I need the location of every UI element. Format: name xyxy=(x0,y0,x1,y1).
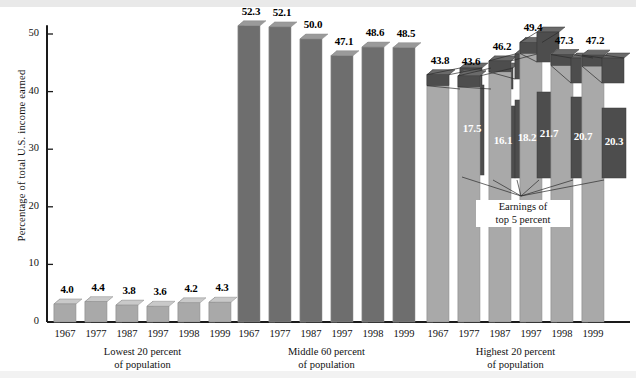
bar-highest-20-percent-1967 xyxy=(427,70,455,322)
bar-value-label: 50.0 xyxy=(296,18,330,30)
bar-lowest-20-percent-1997 xyxy=(147,301,175,322)
annotation-earnings-top5: Earnings oftop 5 percent xyxy=(476,200,570,227)
bar-middle-60-percent-1997 xyxy=(331,51,359,322)
bar-value-label: 3.6 xyxy=(143,285,177,297)
y-tick-label: 30 xyxy=(13,142,39,153)
x-tick-label: 1997 xyxy=(143,328,173,339)
bar-value-label: 52.1 xyxy=(265,6,299,18)
bar-value-label: 47.1 xyxy=(327,35,361,47)
chart-figure: Percentage of total U.S. income earned 0… xyxy=(0,0,636,378)
bar-middle-60-percent-1967 xyxy=(238,21,266,322)
bar-value-label: 43.6 xyxy=(454,55,488,67)
bar-lowest-20-percent-1998 xyxy=(178,298,206,322)
annotation-line2: top 5 percent xyxy=(478,214,568,227)
x-tick-label: 1999 xyxy=(578,328,608,339)
x-tick-label: 1998 xyxy=(358,328,388,339)
x-tick-label: 1987 xyxy=(485,328,515,339)
bar-middle-60-percent-1987 xyxy=(300,34,328,322)
x-tick-label: 1977 xyxy=(454,328,484,339)
x-tick-label: 1977 xyxy=(265,328,295,339)
bar-value-label: 48.6 xyxy=(358,26,392,38)
bar-middle-60-percent-1998 xyxy=(362,42,390,322)
bars-group xyxy=(54,21,630,322)
inset-value-label: 20.7 xyxy=(566,130,600,142)
group-label: Lowest 20 percentof population xyxy=(53,346,233,371)
x-tick-label: 1967 xyxy=(423,328,453,339)
bar-value-label: 4.4 xyxy=(81,281,115,293)
group-label-line1: Lowest 20 percent xyxy=(53,346,233,359)
group-label-line1: Middle 60 percent xyxy=(237,346,417,359)
bar-lowest-20-percent-1967 xyxy=(54,299,82,322)
x-tick-label: 1998 xyxy=(547,328,577,339)
x-tick-label: 1997 xyxy=(327,328,357,339)
bar-value-label: 48.5 xyxy=(389,27,423,39)
x-tick-label: 1999 xyxy=(205,328,235,339)
annotation-line1: Earnings of xyxy=(478,201,568,214)
bar-highest-20-percent-1987 xyxy=(489,56,517,322)
bar-value-label: 49.4 xyxy=(516,21,550,33)
bar-lowest-20-percent-1999 xyxy=(209,297,237,322)
x-tick-label: 1997 xyxy=(516,328,546,339)
bar-value-label: 47.2 xyxy=(578,34,612,46)
y-tick-label: 10 xyxy=(13,257,39,268)
y-axis-title: Percentage of total U.S. income earned xyxy=(16,51,27,261)
bar-value-label: 4.3 xyxy=(205,281,239,293)
bar-highest-20-percent-1997 xyxy=(520,37,548,322)
bar-middle-60-percent-1977 xyxy=(269,22,297,322)
inset-box-1999 xyxy=(602,53,630,83)
bar-value-label: 4.2 xyxy=(174,282,208,294)
group-label-line2: of population xyxy=(53,359,233,372)
bar-highest-20-percent-1999 xyxy=(582,50,610,322)
bar-lowest-20-percent-1977 xyxy=(85,297,113,322)
group-label-line2: of population xyxy=(426,359,606,372)
inset-value-label: 17.5 xyxy=(455,122,489,134)
bar-value-label: 47.3 xyxy=(547,34,581,46)
inset-value-label: 20.3 xyxy=(597,135,631,147)
x-tick-label: 1987 xyxy=(296,328,326,339)
group-label-line2: of population xyxy=(237,359,417,372)
bar-value-label: 4.0 xyxy=(50,283,84,295)
x-tick-label: 1998 xyxy=(174,328,204,339)
x-tick-label: 1967 xyxy=(234,328,264,339)
group-label: Highest 20 percentof population xyxy=(426,346,606,371)
x-tick-label: 1977 xyxy=(81,328,111,339)
bar-value-label: 3.8 xyxy=(112,284,146,296)
group-label: Middle 60 percentof population xyxy=(237,346,417,371)
y-tick-label: 40 xyxy=(13,85,39,96)
bar-value-label: 52.3 xyxy=(234,5,268,17)
chart-canvas xyxy=(0,0,636,378)
y-tick-label: 50 xyxy=(13,27,39,38)
bar-value-label: 43.8 xyxy=(423,54,457,66)
bar-middle-60-percent-1999 xyxy=(393,43,421,322)
x-tick-label: 1999 xyxy=(389,328,419,339)
inset-value-label: 21.7 xyxy=(532,127,566,139)
group-label-line1: Highest 20 percent xyxy=(426,346,606,359)
bar-lowest-20-percent-1987 xyxy=(116,300,144,322)
y-tick-label: 20 xyxy=(13,200,39,211)
x-tick-label: 1987 xyxy=(112,328,142,339)
bar-value-label: 46.2 xyxy=(485,40,519,52)
x-tick-label: 1967 xyxy=(50,328,80,339)
y-tick-label: 0 xyxy=(13,315,39,326)
